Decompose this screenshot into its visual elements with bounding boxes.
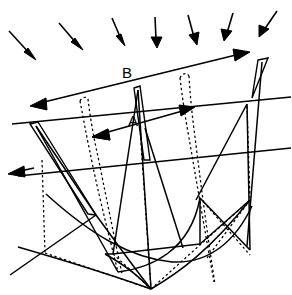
label-b: B <box>122 64 132 81</box>
label-a: A <box>128 112 138 129</box>
technical-drawing: B A <box>0 0 292 295</box>
